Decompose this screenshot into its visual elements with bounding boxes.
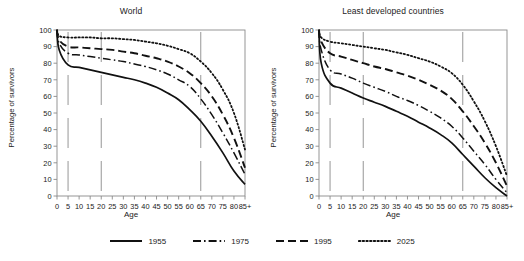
y-axis-label-world: Percentage of survivors [7,33,16,183]
y-tick-label: 90 [43,42,51,51]
y-tick-label: 80 [43,59,51,68]
chart-panels: World 0102030405060708090100051015202530… [0,0,524,226]
plot-area-world: 0102030405060708090100051015202530354045… [0,0,262,226]
legend-swatch-2025 [358,236,392,246]
y-tick-label: 0 [47,192,51,201]
survivorship-chart-figure: World 0102030405060708090100051015202530… [0,0,524,261]
data-line-1955 [57,30,245,184]
legend-swatch-1955 [109,236,143,246]
data-line-1995 [57,30,245,168]
x-axis-label-world: Age [0,210,262,219]
legend-swatch-1995 [275,236,309,246]
y-tick-label: 80 [305,59,313,68]
data-line-1955 [319,30,507,196]
legend-items-container: 1955197519952025 [0,236,524,246]
data-line-1975 [319,30,507,193]
y-tick-label: 10 [305,175,313,184]
y-tick-label: 20 [43,159,51,168]
y-axis-label-least-developed: Percentage of survivors [269,33,278,183]
legend-item-2025: 2025 [358,236,415,246]
y-tick-label: 60 [43,92,51,101]
plot-area-least-developed: 0102030405060708090100051015202530354045… [262,0,524,226]
legend-label-2025: 2025 [397,237,415,246]
y-tick-label: 100 [39,26,51,35]
y-tick-label: 20 [305,159,313,168]
y-tick-label: 10 [43,175,51,184]
y-tick-label: 100 [301,26,313,35]
chart-panel-least-developed: Least developed countries 01020304050607… [262,0,524,226]
legend-label-1975: 1975 [231,237,249,246]
chart-legend: 1955197519952025 [0,228,524,261]
legend-item-1995: 1995 [275,236,332,246]
chart-panel-world: World 0102030405060708090100051015202530… [0,0,262,226]
legend-item-1955: 1955 [109,236,166,246]
y-tick-label: 30 [43,142,51,151]
y-tick-label: 30 [305,142,313,151]
x-axis-label-least-developed: Age [262,210,524,219]
y-tick-label: 40 [305,125,313,134]
y-tick-label: 0 [309,192,313,201]
y-tick-label: 70 [43,76,51,85]
y-tick-label: 70 [305,76,313,85]
y-tick-label: 50 [43,109,51,118]
y-tick-label: 50 [305,109,313,118]
y-tick-label: 90 [305,42,313,51]
legend-label-1995: 1995 [314,237,332,246]
legend-item-1975: 1975 [192,236,249,246]
legend-swatch-1975 [192,236,226,246]
legend-label-1955: 1955 [148,237,166,246]
plot-frame [57,30,245,196]
y-tick-label: 40 [43,125,51,134]
y-tick-label: 60 [305,92,313,101]
